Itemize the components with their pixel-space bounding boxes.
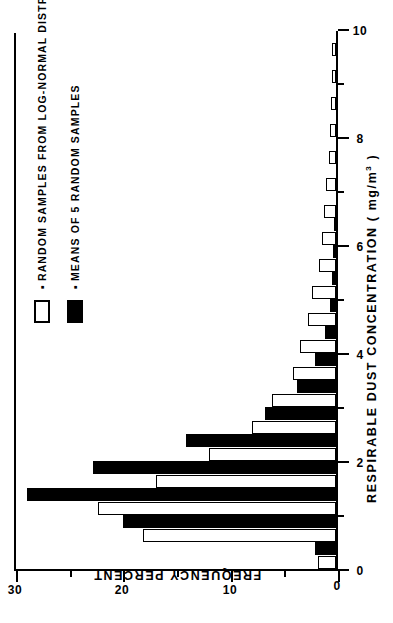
x-tick-minor [338,83,344,85]
x-tick-minor [338,299,344,301]
bar [93,461,336,474]
bar [252,421,336,434]
bar [331,97,336,110]
x-tick-label: 0 [353,562,367,580]
legend-bullet-icon: ▪ [36,285,48,289]
legend-item-open: ▪ RANDOM SAMPLES FROM LOG-NORMAL DISTRIB… [34,0,50,323]
bar [265,407,336,420]
bar [315,542,336,555]
bar [332,70,336,83]
bar [272,394,336,407]
x-tick-label: 8 [353,130,367,148]
bar [322,232,336,245]
bar [123,515,336,528]
bar [27,488,336,501]
bar [330,124,336,137]
x-tick-major [338,461,349,463]
legend: ▪ RANDOM SAMPLES FROM LOG-NORMAL DISTRIB… [34,0,100,323]
x-tick-major [338,353,349,355]
bar [330,299,336,312]
legend-swatch-open-box [34,300,50,323]
bar [186,434,336,447]
y-tick-label: 30 [8,583,22,609]
bar [300,340,336,353]
bar [325,326,336,339]
bar [334,218,336,231]
bar [315,353,336,366]
bar [319,259,336,272]
x-axis-title: RESPIRABLE DUST CONCENTRATION ( mg/m3 ) [364,154,379,503]
y-tick-major [16,571,18,582]
bar [326,178,336,191]
legend-label-solid: MEANS OF 5 RANDOM SAMPLES [69,84,81,281]
bar [143,529,336,542]
bar [312,286,336,299]
bar [332,43,336,56]
bar [156,475,336,488]
bar [324,205,336,218]
bar [297,380,336,393]
bar [209,448,336,461]
figure-canvas: 0246810 0102030 RESPIRABLE DUST CONCENTR… [0,0,393,623]
x-tick-minor [338,191,344,193]
x-tick-minor [338,515,344,517]
legend-swatch-solid-box [67,300,83,323]
bar [329,151,337,164]
y-tick-minor [284,571,286,577]
bar [308,313,336,326]
bar [98,502,336,515]
y-tick-label: 0 [330,583,344,609]
x-tick-major [338,245,349,247]
bar [318,556,336,569]
legend-bullet-icon: ▪ [69,285,81,289]
x-tick-major [338,29,349,31]
x-axis-title-tail: ) [365,154,379,165]
x-axis-title-text: RESPIRABLE DUST CONCENTRATION ( mg/m [365,171,379,503]
bar [333,245,336,258]
legend-item-solid: ▪ MEANS OF 5 RANDOM SAMPLES [67,0,83,323]
x-axis-title-exponent: 3 [364,165,373,171]
x-tick-minor [338,407,344,409]
x-tick-label: 10 [353,22,367,40]
y-tick-label: 10 [223,583,237,609]
bar [293,367,336,380]
y-axis-title: FREQUENCY PERCENT [77,568,277,582]
bar [332,272,336,285]
y-tick-minor [70,571,72,577]
y-tick-label: 20 [115,583,129,609]
legend-label-open: RANDOM SAMPLES FROM LOG-NORMAL DISTRIBUT… [36,0,48,281]
rotated-plot-stage: 0246810 0102030 RESPIRABLE DUST CONCENTR… [0,0,393,623]
x-tick-major [338,137,349,139]
